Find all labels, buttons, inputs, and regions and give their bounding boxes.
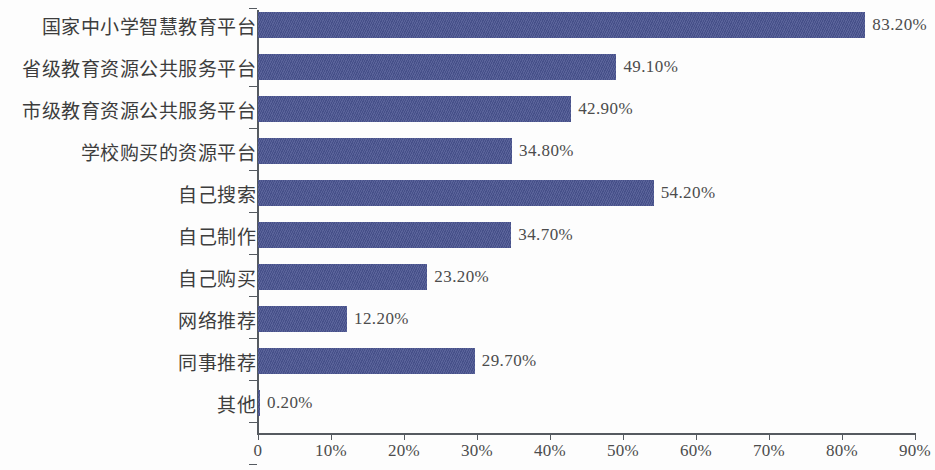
x-axis-tick [550, 434, 551, 440]
y-axis-tick [249, 254, 257, 255]
bar-row: 市级教育资源公共服务平台42.90% [0, 96, 935, 122]
bar-row: 自己购买23.20% [0, 264, 935, 290]
x-axis-tick [258, 434, 259, 440]
bar-row: 同事推荐29.70% [0, 348, 935, 374]
y-axis-tick [249, 296, 257, 297]
y-axis-tick [249, 128, 257, 129]
x-axis-tick-label: 30% [461, 441, 493, 461]
bar-row: 学校购买的资源平台34.80% [0, 138, 935, 164]
y-axis-tick [249, 170, 257, 171]
bar [258, 348, 475, 374]
x-axis-tick-label: 60% [680, 441, 712, 461]
category-label: 自己制作 [178, 222, 256, 249]
category-label: 国家中小学智慧教育平台 [42, 12, 257, 39]
bar-row: 网络推荐12.20% [0, 306, 935, 332]
y-axis-tick [249, 212, 257, 213]
x-axis-tick [915, 434, 916, 440]
x-axis-tick [769, 434, 770, 440]
x-axis-tick-label: 0 [254, 441, 263, 461]
x-axis-tick [623, 434, 624, 440]
x-axis-tick [842, 434, 843, 440]
bar [258, 54, 616, 80]
x-axis-tick-label: 10% [315, 441, 347, 461]
x-axis-tick [696, 434, 697, 440]
bar-value-label: 29.70% [482, 351, 537, 371]
y-axis-tick [249, 464, 257, 465]
category-label: 同事推荐 [178, 348, 256, 375]
bar-value-label: 0.20% [267, 393, 313, 413]
bar-chart: 国家中小学智慧教育平台83.20%省级教育资源公共服务平台49.10%市级教育资… [0, 0, 935, 470]
y-axis-tick [249, 86, 257, 87]
x-axis-tick [331, 434, 332, 440]
x-axis-tick-label: 20% [388, 441, 420, 461]
bar-value-label: 34.70% [518, 225, 573, 245]
bar-value-label: 42.90% [578, 99, 633, 119]
bar-value-label: 34.80% [519, 141, 574, 161]
x-axis-line [257, 433, 916, 435]
bar-row: 自己搜索54.20% [0, 180, 935, 206]
bar [258, 306, 347, 332]
x-axis-tick-label: 90% [899, 441, 931, 461]
bar-row: 国家中小学智慧教育平台83.20% [0, 12, 935, 38]
bar [258, 12, 865, 38]
bar [258, 390, 260, 416]
bar [258, 264, 427, 290]
y-axis-tick [249, 422, 257, 423]
bar-value-label: 54.20% [661, 183, 716, 203]
y-axis-tick [249, 8, 257, 9]
category-label: 自己购买 [178, 264, 256, 291]
bar [258, 96, 571, 122]
bar-row: 省级教育资源公共服务平台49.10% [0, 54, 935, 80]
bar-value-label: 23.20% [434, 267, 489, 287]
category-label: 省级教育资源公共服务平台 [22, 54, 256, 81]
category-label: 市级教育资源公共服务平台 [22, 96, 256, 123]
x-axis-tick-label: 40% [534, 441, 566, 461]
category-label: 其他 [217, 390, 256, 417]
bar-value-label: 49.10% [623, 57, 678, 77]
x-axis-tick-label: 80% [826, 441, 858, 461]
x-axis-tick [404, 434, 405, 440]
y-axis-tick [249, 338, 257, 339]
bar [258, 222, 511, 248]
bar-value-label: 12.20% [354, 309, 409, 329]
bar-row: 自己制作34.70% [0, 222, 935, 248]
bar [258, 180, 654, 206]
y-axis-tick [249, 380, 257, 381]
bar [258, 138, 512, 164]
category-label: 网络推荐 [178, 306, 256, 333]
bar-value-label: 83.20% [872, 15, 927, 35]
x-axis-tick-label: 50% [607, 441, 639, 461]
category-label: 学校购买的资源平台 [81, 138, 257, 165]
category-label: 自己搜索 [178, 180, 256, 207]
x-axis-tick [477, 434, 478, 440]
bar-row: 其他0.20% [0, 390, 935, 416]
x-axis-tick-label: 70% [753, 441, 785, 461]
